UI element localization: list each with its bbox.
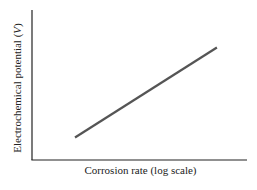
y-axis-label: Electrochemical potential (V) xyxy=(11,13,23,163)
data-line xyxy=(75,48,217,138)
x-axis-label: Corrosion rate (log scale) xyxy=(0,164,257,176)
chart-canvas xyxy=(0,0,257,190)
